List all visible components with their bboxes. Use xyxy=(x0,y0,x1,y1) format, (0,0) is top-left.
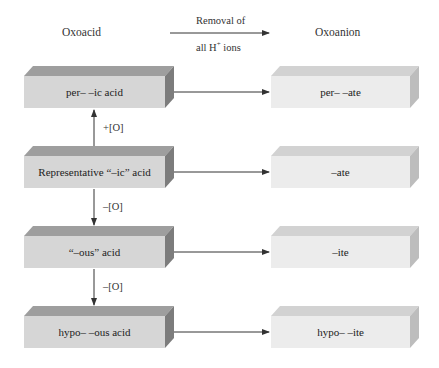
oxidation-label: +[O] xyxy=(103,122,124,133)
box-top-face xyxy=(271,306,419,316)
box-top-face xyxy=(271,226,419,236)
acid-label: hypo– –ous acid xyxy=(24,316,165,348)
acid-box-ous: “–ous” acid xyxy=(24,226,174,268)
box-top-face xyxy=(24,306,174,316)
anion-box-ate: –ate xyxy=(271,146,419,188)
acid-label: Representative “–ic” acid xyxy=(24,156,165,188)
anion-box-per-ate: per– –ate xyxy=(271,66,419,108)
reduction-label-2: –[O] xyxy=(103,281,123,292)
anion-box-ite: –ite xyxy=(271,226,419,268)
box-top-face xyxy=(271,146,419,156)
box-top-face xyxy=(24,146,174,156)
reduction-label-1: –[O] xyxy=(103,201,123,212)
anion-label: –ite xyxy=(271,236,410,268)
acid-box-per-ic: per– –ic acid xyxy=(24,66,174,108)
acid-label: “–ous” acid xyxy=(24,236,165,268)
anion-label: –ate xyxy=(271,156,410,188)
box-top-face xyxy=(271,66,419,76)
acid-label: per– –ic acid xyxy=(24,76,165,108)
box-top-face xyxy=(24,226,174,236)
anion-box-hypo-ite: hypo– –ite xyxy=(271,306,419,348)
acid-box-hypo-ous: hypo– –ous acid xyxy=(24,306,174,348)
box-top-face xyxy=(24,66,174,76)
anion-label: per– –ate xyxy=(271,76,410,108)
acid-box-ic: Representative “–ic” acid xyxy=(24,146,174,188)
anion-label: hypo– –ite xyxy=(271,316,410,348)
